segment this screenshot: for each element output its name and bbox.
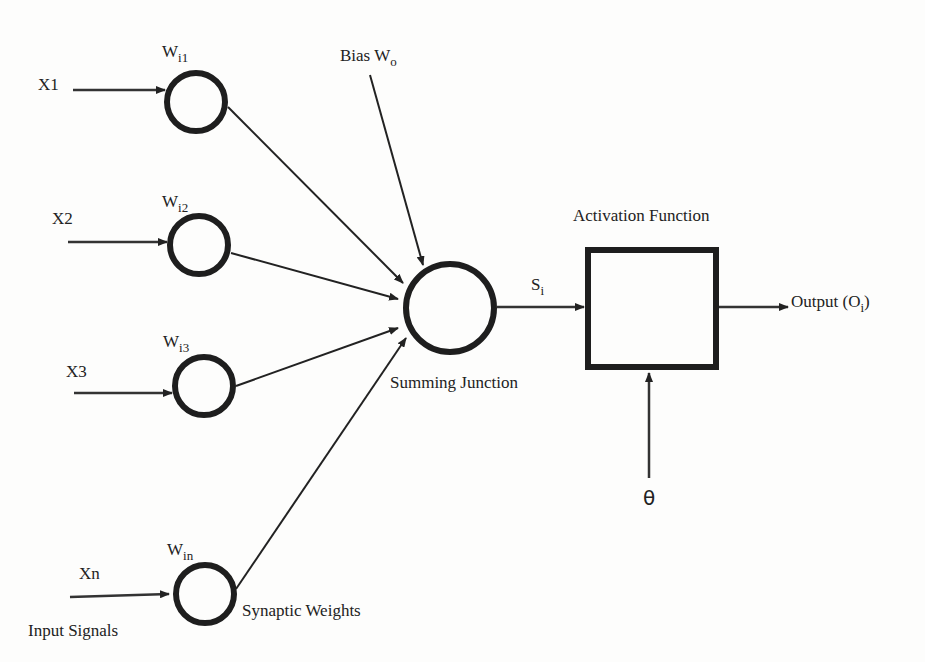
weight-node-i3	[175, 357, 233, 415]
input-label-xn: Xn	[79, 565, 100, 582]
bias-connection	[370, 75, 423, 265]
input-label-x3: X3	[66, 363, 87, 380]
input-label-x1: X1	[38, 76, 59, 93]
activation-function-box	[588, 250, 716, 367]
bias-label: Bias Wo	[340, 47, 397, 64]
input-arrow-xn	[70, 594, 169, 597]
output-label: Output (Oi)	[791, 293, 870, 310]
summing-junction-label: Summing Junction	[390, 374, 518, 391]
connection-i3	[236, 328, 398, 386]
input-label-x2: X2	[52, 210, 73, 227]
neuron-diagram: X1 X2 X3 Xn Wi1 Wi2 Wi3 Win Bias Wo Summ…	[0, 0, 925, 662]
weight-label-in: Win	[167, 541, 193, 558]
weight-label-i1: Wi1	[162, 43, 188, 60]
input-signals-label: Input Signals	[28, 622, 118, 639]
summing-junction-node	[406, 264, 494, 352]
threshold-symbol: θ	[643, 488, 655, 508]
connection-in	[236, 338, 406, 589]
weight-label-i2: Wi2	[162, 193, 188, 210]
connection-i1	[228, 107, 403, 283]
synaptic-weights-label: Synaptic Weights	[242, 602, 361, 619]
connection-i2	[231, 253, 398, 299]
diagram-canvas	[0, 0, 925, 662]
weight-node-i1	[167, 73, 225, 131]
weight-label-i3: Wi3	[163, 333, 189, 350]
activation-function-label: Activation Function	[573, 207, 709, 224]
sum-signal-label: Si	[531, 276, 544, 293]
weight-node-in	[176, 565, 234, 623]
weight-node-i2	[170, 216, 228, 274]
